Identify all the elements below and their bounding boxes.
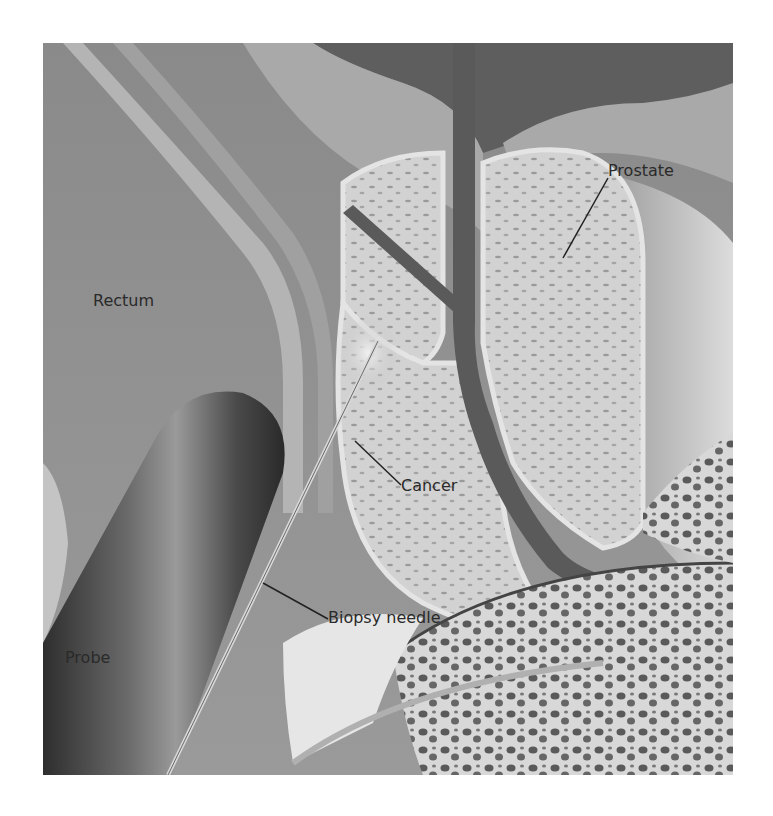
label-prostate: Prostate — [608, 161, 674, 180]
anatomy-illustration: Prostate Rectum Cancer Biopsy needle Pro… — [43, 43, 733, 775]
label-rectum: Rectum — [93, 291, 154, 310]
label-probe: Probe — [65, 648, 110, 667]
anatomy-drawing — [43, 43, 733, 775]
label-cancer: Cancer — [401, 476, 457, 495]
label-biopsy-needle: Biopsy needle — [328, 608, 441, 627]
